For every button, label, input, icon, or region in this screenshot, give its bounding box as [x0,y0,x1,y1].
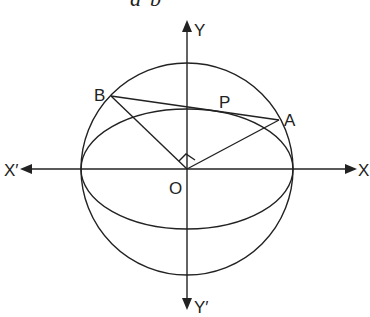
segment-ob [111,96,187,169]
segment-oa [187,120,279,169]
label-y: Y [194,21,205,40]
label-b: B [94,86,105,105]
label-a: A [284,111,296,130]
x-axis-arrow-left-icon [20,164,32,174]
top-fragment-a: a [130,0,141,11]
y-axis-arrow-down-icon [182,298,192,310]
label-y-prime: Y′ [194,298,209,317]
y-axis-arrow-up-icon [182,20,192,32]
label-origin: O [169,179,182,198]
label-x: X [358,161,369,180]
x-axis-arrow-right-icon [345,164,357,174]
label-p: P [219,93,230,112]
label-x-prime: X′ [4,161,19,180]
ellipse-auxiliary-circle-diagram: a b Y Y′ X X′ O A B P [0,0,370,317]
top-fragment-b: b [150,0,161,11]
